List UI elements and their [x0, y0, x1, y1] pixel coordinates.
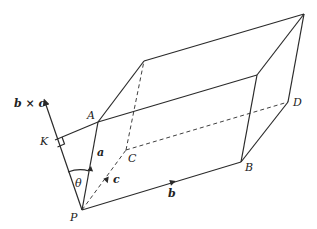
parallelepiped-diagram: P A B C D K a b c b × c θ [0, 0, 317, 229]
edge-F-G [257, 14, 304, 75]
edge-P-B [82, 162, 241, 210]
label-K: K [39, 135, 49, 148]
edge-C-E [126, 61, 144, 150]
label-P: P [69, 211, 78, 224]
normal-vector-bxc [45, 102, 82, 210]
label-theta: θ [75, 177, 82, 190]
label-vector-b: b [168, 187, 176, 200]
label-D: D [292, 96, 302, 109]
edge-A-K [55, 122, 98, 140]
label-B: B [244, 161, 253, 174]
edge-C-D [126, 102, 288, 150]
edge-A-F [98, 75, 257, 122]
edge-B-F [241, 75, 257, 162]
theta-arc [68, 170, 89, 172]
edge-E-G [144, 14, 304, 61]
label-C: C [128, 152, 137, 165]
edge-A-E [98, 61, 144, 122]
edge-G-D [288, 14, 304, 102]
label-vector-a: a [97, 146, 104, 159]
label-vector-c: c [113, 173, 120, 186]
edge-P-A [82, 122, 98, 210]
label-vector-bxc: b × c [14, 97, 46, 110]
edge-D-B [241, 102, 288, 162]
label-A: A [86, 109, 95, 122]
